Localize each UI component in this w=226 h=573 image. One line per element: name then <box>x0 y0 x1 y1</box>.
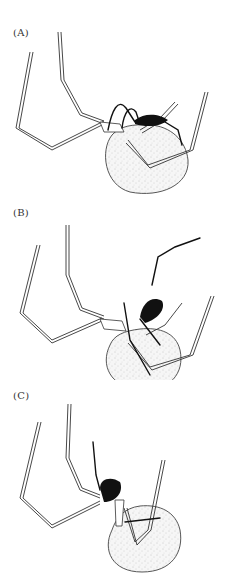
panel-c: (C) <box>0 380 226 573</box>
panel-a: (A) <box>0 0 226 195</box>
panel-b: (B) <box>0 195 226 380</box>
spider-illustration-c <box>0 380 226 573</box>
spider-illustration-a <box>0 0 226 195</box>
spider-illustration-b <box>0 195 226 380</box>
